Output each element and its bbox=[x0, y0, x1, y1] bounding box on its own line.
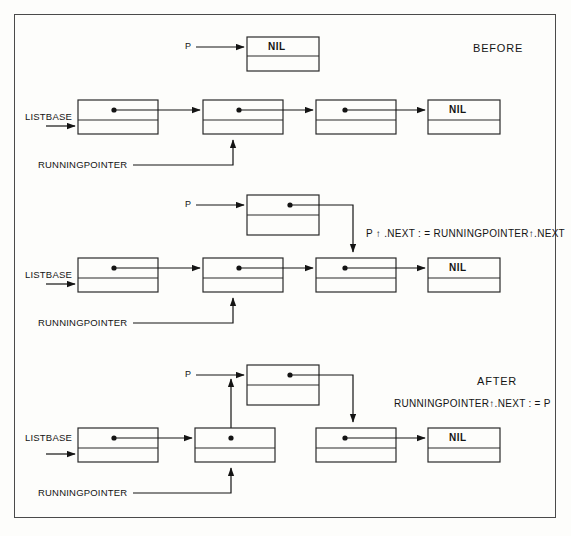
middle-node-0 bbox=[78, 258, 158, 292]
before-new-node-nil-label: NIL bbox=[268, 41, 286, 52]
before-p-label: P bbox=[185, 41, 191, 51]
after-new-node bbox=[247, 365, 319, 405]
after-listbase-label: LISTBASE bbox=[25, 432, 72, 443]
after-runningpointer-label: RUNNINGPOINTER bbox=[38, 487, 127, 498]
before-node-0 bbox=[78, 100, 158, 134]
before-listbase-label: LISTBASE bbox=[25, 111, 72, 122]
before-runningpointer-label: RUNNINGPOINTER bbox=[38, 159, 127, 170]
after-caption: AFTER bbox=[477, 375, 517, 387]
before-runningpointer-line bbox=[133, 140, 233, 165]
before-node-1 bbox=[203, 100, 283, 134]
after-node-2 bbox=[316, 428, 396, 462]
middle-node-2 bbox=[316, 258, 396, 292]
before-nil-label: NIL bbox=[449, 104, 467, 115]
middle-listbase-label: LISTBASE bbox=[25, 269, 72, 280]
middle-p-label: P bbox=[185, 199, 191, 209]
linked-list-diagram-canvas bbox=[0, 0, 571, 536]
after-runningpointer-line bbox=[133, 468, 231, 493]
middle-new-node bbox=[247, 195, 319, 235]
before-caption: BEFORE bbox=[473, 42, 523, 54]
middle-runningpointer-line bbox=[133, 298, 233, 323]
after-node-1 bbox=[195, 428, 275, 462]
middle-runningpointer-label: RUNNINGPOINTER bbox=[38, 317, 127, 328]
before-node-2 bbox=[316, 100, 396, 134]
after-nil-label: NIL bbox=[449, 432, 467, 443]
middle-node-1 bbox=[203, 258, 283, 292]
after-node-0 bbox=[78, 428, 158, 462]
after-p-label: P bbox=[185, 369, 191, 379]
after-formula: RUNNINGPOINTER↑.NEXT : = P bbox=[394, 398, 551, 409]
middle-nil-label: NIL bbox=[449, 262, 467, 273]
figure-root: P NIL BEFORE LISTBASE NIL RUNNINGPOINTER… bbox=[0, 0, 571, 536]
middle-formula: P ↑ .NEXT : = RUNNINGPOINTER↑.NEXT bbox=[366, 228, 565, 239]
